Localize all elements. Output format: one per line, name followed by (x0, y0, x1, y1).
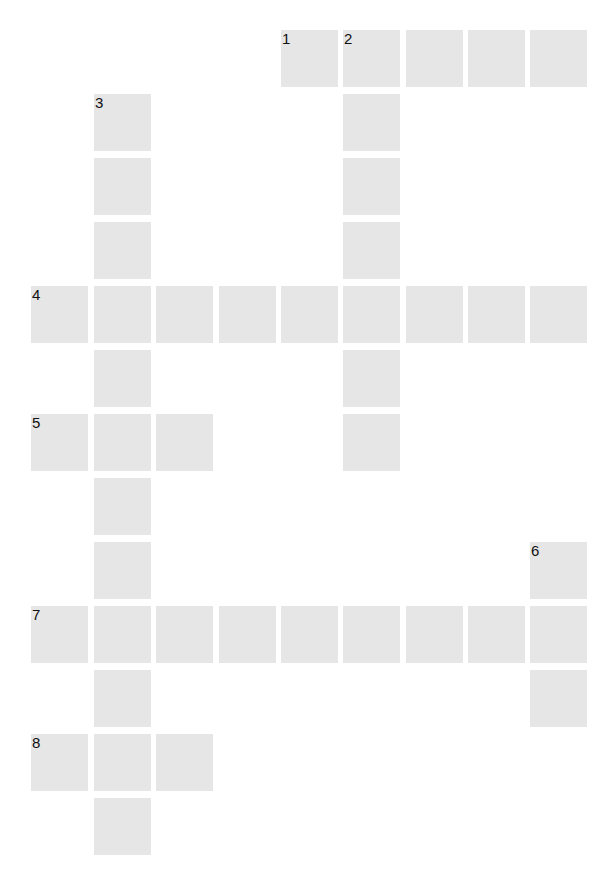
clue-number: 8 (32, 735, 40, 750)
crossword-cell[interactable] (94, 158, 151, 215)
clue-number: 3 (95, 95, 103, 110)
crossword-cell[interactable] (343, 606, 400, 663)
crossword-cell[interactable] (219, 286, 276, 343)
crossword-grid: 12345678 (0, 0, 604, 871)
crossword-cell[interactable] (94, 606, 151, 663)
crossword-cell[interactable] (94, 414, 151, 471)
crossword-cell[interactable] (343, 94, 400, 151)
crossword-cell[interactable] (156, 286, 213, 343)
crossword-cell[interactable] (94, 734, 151, 791)
crossword-cell[interactable]: 2 (343, 30, 400, 87)
crossword-cell[interactable]: 6 (530, 542, 587, 599)
clue-number: 7 (32, 607, 40, 622)
crossword-cell[interactable] (468, 286, 525, 343)
crossword-cell[interactable]: 7 (31, 606, 88, 663)
clue-number: 5 (32, 415, 40, 430)
crossword-cell[interactable]: 1 (281, 30, 338, 87)
crossword-cell[interactable]: 4 (31, 286, 88, 343)
crossword-cell[interactable] (156, 734, 213, 791)
clue-number: 6 (531, 543, 539, 558)
crossword-cell[interactable] (281, 606, 338, 663)
crossword-cell[interactable] (94, 542, 151, 599)
crossword-cell[interactable] (343, 414, 400, 471)
crossword-cell[interactable] (94, 670, 151, 727)
crossword-cell[interactable] (94, 350, 151, 407)
crossword-cell[interactable] (343, 222, 400, 279)
crossword-cell[interactable] (281, 286, 338, 343)
crossword-cell[interactable] (219, 606, 276, 663)
crossword-cell[interactable] (94, 222, 151, 279)
crossword-cell[interactable] (530, 670, 587, 727)
crossword-cell[interactable] (530, 30, 587, 87)
crossword-cell[interactable] (406, 286, 463, 343)
crossword-cell[interactable]: 3 (94, 94, 151, 151)
crossword-cell[interactable] (343, 158, 400, 215)
crossword-cell[interactable] (530, 286, 587, 343)
crossword-cell[interactable] (156, 414, 213, 471)
crossword-cell[interactable] (343, 350, 400, 407)
crossword-cell[interactable]: 8 (31, 734, 88, 791)
clue-number: 2 (344, 31, 352, 46)
crossword-cell[interactable] (343, 286, 400, 343)
crossword-cell[interactable] (94, 286, 151, 343)
crossword-cell[interactable]: 5 (31, 414, 88, 471)
crossword-cell[interactable] (530, 606, 587, 663)
crossword-cell[interactable] (94, 798, 151, 855)
crossword-cell[interactable] (468, 606, 525, 663)
clue-number: 4 (32, 287, 40, 302)
crossword-cell[interactable] (156, 606, 213, 663)
crossword-cell[interactable] (406, 606, 463, 663)
clue-number: 1 (282, 31, 290, 46)
crossword-cell[interactable] (94, 478, 151, 535)
crossword-cell[interactable] (406, 30, 463, 87)
crossword-cell[interactable] (468, 30, 525, 87)
